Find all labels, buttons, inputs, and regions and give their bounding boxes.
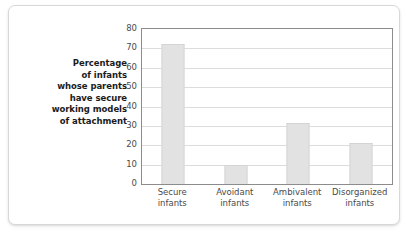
y-tick-label: 0 — [115, 179, 137, 188]
plot-wrapper: 01020304050607080 SecureinfantsAvoidanti… — [141, 22, 391, 190]
y-axis-label-line: Percentage — [21, 58, 127, 70]
y-axis-label: Percentage of infants whose parents have… — [21, 58, 127, 128]
y-tick-label: 80 — [115, 24, 137, 33]
x-tick-label-line: infants — [329, 198, 392, 209]
x-tick-label: Secureinfants — [141, 187, 204, 209]
y-axis-label-line: have secure — [21, 93, 127, 105]
bar[interactable] — [162, 44, 185, 184]
chart-figure: Percentage of infants whose parents have… — [8, 5, 400, 225]
y-tick-label: 40 — [115, 101, 137, 110]
x-tick-label: Avoidantinfants — [204, 187, 267, 209]
y-axis-label-line: of attachment — [21, 116, 127, 128]
bar-slot — [142, 29, 205, 184]
x-tick-label: Ambivalentinfants — [266, 187, 329, 209]
y-axis-ticks: 01020304050607080 — [115, 22, 137, 177]
bar[interactable] — [349, 143, 372, 184]
y-tick-label: 10 — [115, 159, 137, 168]
x-tick-label-line: infants — [141, 198, 204, 209]
x-tick-label-line: infants — [266, 198, 329, 209]
x-tick-label-line: Disorganized — [329, 187, 392, 198]
bar[interactable] — [287, 123, 310, 184]
x-tick-label-line: Ambivalent — [266, 187, 329, 198]
plot-area — [141, 28, 393, 185]
x-tick-label-line: Avoidant — [204, 187, 267, 198]
y-tick-label: 60 — [115, 63, 137, 72]
x-tick-label-line: infants — [204, 198, 267, 209]
bar-series — [142, 29, 392, 184]
bar-slot — [205, 29, 268, 184]
y-tick-label: 20 — [115, 140, 137, 149]
bar-slot — [267, 29, 330, 184]
y-tick-label: 50 — [115, 82, 137, 91]
y-axis-label-line: working models — [21, 104, 127, 116]
bar[interactable] — [224, 165, 247, 184]
y-tick-label: 70 — [115, 43, 137, 52]
x-tick-label-line: Secure — [141, 187, 204, 198]
y-tick-label: 30 — [115, 121, 137, 130]
x-axis-labels: SecureinfantsAvoidantinfantsAmbivalentin… — [141, 187, 391, 217]
y-axis-label-line: of infants — [21, 70, 127, 82]
y-axis-label-line: whose parents — [21, 81, 127, 93]
x-tick-label: Disorganizedinfants — [329, 187, 392, 209]
bar-slot — [330, 29, 393, 184]
